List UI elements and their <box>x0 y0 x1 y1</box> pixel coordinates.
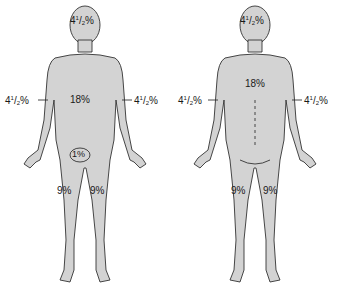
front-genitals-label: 1% <box>72 150 85 159</box>
back-right-leg-label: 9% <box>263 186 277 196</box>
front-trunk-label: 18% <box>70 95 90 105</box>
body-figures <box>0 0 338 297</box>
back-left-arm-label: 41/2% <box>178 95 202 106</box>
front-right-leg-label: 9% <box>90 186 104 196</box>
front-right-arm-label: 41/2% <box>134 95 158 106</box>
front-left-leg-label: 9% <box>57 186 71 196</box>
back-head-label: 41/2% <box>240 15 264 26</box>
back-trunk-label: 18% <box>245 79 265 89</box>
front-left-arm-label: 41/2% <box>5 95 29 106</box>
back-left-leg-label: 9% <box>231 186 245 196</box>
front-figure <box>24 6 146 282</box>
back-right-arm-label: 41/2% <box>304 95 328 106</box>
back-figure <box>194 6 316 282</box>
front-head-label: 41/2% <box>70 15 94 26</box>
